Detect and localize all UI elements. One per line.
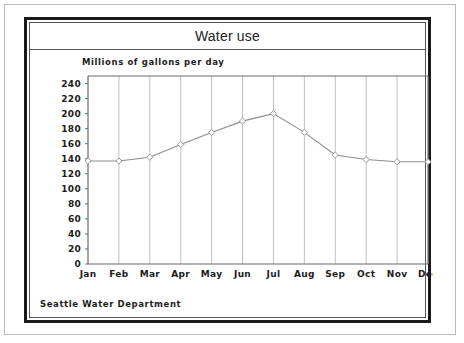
svg-text:Nov: Nov xyxy=(387,269,407,279)
svg-text:240: 240 xyxy=(61,79,81,89)
svg-text:20: 20 xyxy=(68,244,81,254)
svg-text:Jun: Jun xyxy=(233,269,251,279)
svg-text:Aug: Aug xyxy=(294,269,315,279)
x-axis-ticks: JanFebMarAprMayJunJulAugSepOctNovDec xyxy=(79,269,433,279)
svg-text:Apr: Apr xyxy=(171,269,190,279)
svg-text:May: May xyxy=(201,269,223,279)
svg-text:40: 40 xyxy=(68,229,81,239)
series-markers xyxy=(85,111,431,165)
chart-card: Water use Millions of gallons per day 02… xyxy=(24,17,431,323)
svg-text:160: 160 xyxy=(61,139,81,149)
svg-text:200: 200 xyxy=(61,109,81,119)
svg-text:120: 120 xyxy=(61,169,81,179)
svg-text:100: 100 xyxy=(61,184,81,194)
svg-text:Jan: Jan xyxy=(79,269,97,279)
series-line-water-use xyxy=(88,114,428,162)
chart-body: Millions of gallons per day 020406080100… xyxy=(30,50,425,317)
svg-text:Oct: Oct xyxy=(357,269,376,279)
svg-text:220: 220 xyxy=(61,94,81,104)
line-chart-svg: 020406080100120140160180200220240 JanFeb… xyxy=(30,68,433,298)
svg-text:140: 140 xyxy=(61,154,81,164)
chart-footer-source: Seattle Water Department xyxy=(40,299,181,309)
svg-text:Feb: Feb xyxy=(109,269,128,279)
y-axis-title: Millions of gallons per day xyxy=(82,57,224,67)
y-axis-ticks: 020406080100120140160180200220240 xyxy=(61,79,88,269)
svg-text:Mar: Mar xyxy=(140,269,161,279)
svg-text:0: 0 xyxy=(74,259,81,269)
chart-card-inner: Water use Millions of gallons per day 02… xyxy=(29,22,426,318)
svg-text:Jul: Jul xyxy=(266,269,281,279)
svg-text:180: 180 xyxy=(61,124,81,134)
axis-lines xyxy=(88,76,428,264)
svg-text:80: 80 xyxy=(68,199,81,209)
svg-text:60: 60 xyxy=(68,214,81,224)
plot-area: 020406080100120140160180200220240 JanFeb… xyxy=(30,68,425,298)
svg-text:Sep: Sep xyxy=(325,269,345,279)
svg-text:Dec: Dec xyxy=(418,269,433,279)
page-title: Water use xyxy=(195,28,260,44)
chart-title-bar: Water use xyxy=(30,23,425,50)
grid-lines xyxy=(88,76,428,264)
